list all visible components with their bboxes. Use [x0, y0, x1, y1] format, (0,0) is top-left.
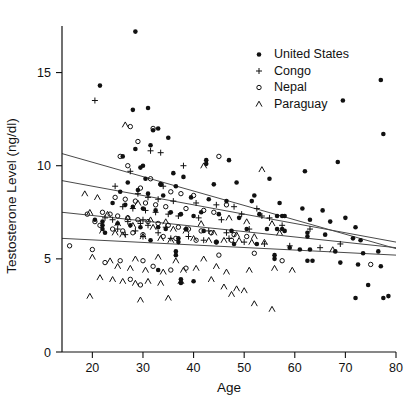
data-point-paraguay	[236, 237, 242, 242]
data-point-paraguay	[137, 297, 143, 302]
x-tick-label: 40	[187, 361, 201, 375]
data-point-united-states	[328, 219, 333, 224]
data-point-congo	[180, 163, 186, 169]
data-point-group	[67, 29, 390, 311]
data-point-congo	[223, 230, 229, 236]
data-point-paraguay	[120, 278, 126, 283]
x-axis-title: Age	[217, 380, 241, 395]
legend: United StatesCongoNepalParaguay	[256, 47, 349, 111]
data-point-united-states	[141, 163, 146, 168]
data-point-paraguay	[223, 269, 229, 274]
data-point-congo	[155, 196, 161, 202]
data-point-nepal	[368, 262, 372, 266]
data-point-nepal	[176, 225, 180, 229]
data-point-united-states	[133, 29, 138, 34]
data-point-paraguay	[229, 291, 235, 296]
data-point-paraguay	[213, 264, 219, 269]
data-point-paraguay	[158, 280, 164, 285]
data-point-united-states	[191, 214, 196, 219]
data-point-congo	[317, 245, 323, 251]
data-point-congo	[148, 148, 154, 154]
data-point-united-states	[118, 189, 123, 194]
axes-group	[62, 26, 396, 352]
data-point-united-states	[305, 258, 310, 263]
data-point-united-states	[381, 296, 386, 301]
data-point-united-states	[237, 216, 242, 221]
data-point-paraguay	[193, 265, 199, 270]
data-point-united-states	[131, 108, 136, 113]
data-point-united-states	[156, 268, 161, 273]
data-point-nepal	[151, 264, 155, 268]
data-point-united-states	[191, 279, 196, 284]
data-point-united-states	[305, 234, 310, 239]
data-point-united-states	[282, 214, 287, 219]
data-point-united-states	[146, 106, 151, 111]
data-point-united-states	[174, 184, 179, 189]
x-tick-label: 60	[288, 361, 302, 375]
data-point-united-states	[181, 175, 186, 180]
data-point-united-states	[386, 294, 391, 299]
data-point-nepal	[138, 283, 142, 287]
data-point-united-states	[343, 216, 348, 221]
data-point-nepal	[252, 251, 256, 255]
data-point-united-states	[143, 176, 148, 181]
data-point-united-states	[361, 251, 366, 256]
data-point-nepal	[110, 227, 114, 231]
data-point-united-states	[265, 227, 270, 232]
data-point-paraguay	[87, 293, 93, 298]
data-point-united-states	[303, 169, 308, 174]
legend-label: Paraguay	[274, 97, 328, 111]
data-point-united-states	[110, 201, 115, 206]
data-point-paraguay	[251, 301, 257, 306]
data-point-united-states	[161, 193, 166, 198]
data-point-paraguay	[132, 280, 138, 285]
data-point-paraguay	[226, 215, 232, 220]
x-tick-group: 20304050607080	[85, 352, 403, 375]
data-point-paraguay	[244, 219, 250, 224]
data-point-congo	[254, 206, 260, 212]
data-point-congo	[170, 198, 176, 204]
data-point-paraguay	[132, 256, 138, 261]
data-point-paraguay	[246, 267, 252, 272]
data-point-nepal	[136, 139, 140, 143]
data-point-united-states	[227, 158, 232, 163]
legend-label: Congo	[274, 64, 311, 78]
x-tick-label: 80	[389, 361, 403, 375]
y-axis-title: Testosterone Level (ng/dl)	[4, 118, 19, 273]
data-point-united-states	[148, 143, 153, 148]
data-point-congo	[92, 98, 98, 104]
legend-label: United States	[274, 47, 349, 61]
legend-marker-caret	[256, 101, 262, 106]
data-point-nepal	[169, 268, 173, 272]
data-point-nepal	[115, 214, 119, 218]
data-point-nepal	[90, 247, 94, 251]
data-point-nepal	[153, 203, 157, 207]
data-point-united-states	[249, 199, 254, 204]
data-point-united-states	[171, 171, 176, 176]
data-point-congo	[231, 204, 237, 210]
x-tick-label: 20	[85, 361, 99, 375]
data-point-nepal	[217, 154, 221, 158]
data-point-united-states	[336, 160, 341, 165]
data-point-united-states	[275, 214, 280, 219]
data-point-united-states	[252, 193, 257, 198]
data-point-paraguay	[173, 258, 179, 263]
x-tick-label: 50	[237, 361, 251, 375]
data-point-united-states	[308, 247, 313, 252]
data-point-nepal	[212, 210, 216, 214]
data-point-congo	[145, 194, 151, 200]
y-tick-label: 15	[37, 66, 51, 80]
legend-marker-open-circle	[257, 85, 261, 89]
data-point-nepal	[123, 197, 127, 201]
data-point-united-states	[379, 78, 384, 83]
data-point-paraguay	[251, 234, 257, 239]
data-point-paraguay	[269, 306, 275, 311]
data-point-nepal	[143, 201, 147, 205]
chart-canvas: 051015 20304050607080 Age Testosterone L…	[0, 0, 420, 402]
data-point-nepal	[113, 195, 117, 199]
y-tick-label: 0	[44, 346, 51, 360]
data-point-united-states	[255, 242, 260, 247]
data-point-united-states	[353, 296, 358, 301]
data-point-congo	[158, 150, 164, 156]
data-point-united-states	[320, 208, 325, 213]
